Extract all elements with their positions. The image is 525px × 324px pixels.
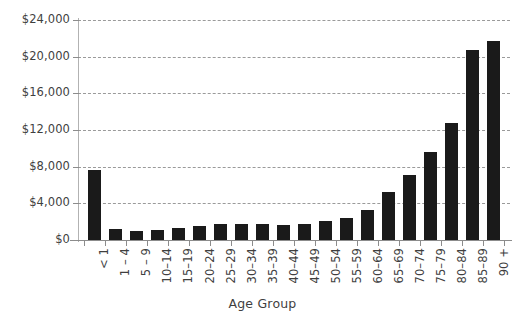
x-axis-tick-label-text: 45–49 (310, 248, 322, 284)
bar (403, 175, 416, 240)
bar (361, 210, 374, 240)
x-axis-tick-label: 5 – 9 (141, 248, 153, 276)
x-axis-tick-label: 15–19 (183, 248, 195, 284)
x-axis-tick-label-text: 25–29 (226, 248, 238, 284)
x-axis-tick-label-text: 85–89 (478, 248, 490, 284)
x-axis-tick-mark (210, 240, 211, 246)
x-axis-tick-label: 30–34 (247, 248, 259, 284)
y-axis-tick-label: $12,000 (6, 124, 70, 136)
x-axis-tick-label: 70–74 (415, 248, 427, 284)
x-axis-tick-mark (189, 240, 190, 246)
bar (193, 226, 206, 240)
x-axis-tick-mark (378, 240, 379, 246)
x-axis-tick-label: 25–29 (226, 248, 238, 284)
x-axis-tick-label: 60–64 (373, 248, 385, 284)
bar (340, 218, 353, 240)
x-axis-tick-label: 85–89 (478, 248, 490, 284)
x-axis-tick-label-text: 50–54 (331, 248, 343, 284)
x-axis-tick-label-text: < 1 (99, 248, 111, 269)
x-axis-tick-label-text: 40–44 (289, 248, 301, 284)
bar (88, 170, 101, 240)
x-axis-tick-mark (462, 240, 463, 246)
x-axis-tick-label: 75–79 (436, 248, 448, 284)
x-axis-tick-mark (504, 240, 505, 246)
x-axis-tick-label: 1 – 4 (120, 248, 132, 276)
x-axis-tick-label: 65–69 (394, 248, 406, 284)
x-axis-tick-label: 50–54 (331, 248, 343, 284)
bar (130, 231, 143, 240)
bar (487, 41, 500, 240)
x-axis-tick-mark (273, 240, 274, 246)
y-axis-tick-label: $8,000 (6, 161, 70, 173)
bar (319, 221, 332, 240)
x-axis-tick-label-text: 90 + (499, 248, 511, 276)
x-axis-tick-label: 45–49 (310, 248, 322, 284)
x-axis-tick-mark (168, 240, 169, 246)
x-axis-tick-label-text: 75–79 (436, 248, 448, 284)
x-axis-tick-mark (105, 240, 106, 246)
x-axis-tick-label: 20–24 (205, 248, 217, 284)
x-axis-tick-label: 80–84 (457, 248, 469, 284)
x-axis-tick-label-text: 70–74 (415, 248, 427, 284)
x-axis-tick-mark (231, 240, 232, 246)
y-axis-tick-label: $20,000 (6, 51, 70, 63)
bar (235, 224, 248, 241)
bar (277, 225, 290, 240)
x-axis-tick-mark (357, 240, 358, 246)
x-axis-labels: < 11 – 45 – 910–1415–1920–2425–2930–3435… (78, 248, 510, 298)
bar (382, 192, 395, 240)
bars-container (78, 20, 510, 240)
x-axis-tick-mark (315, 240, 316, 246)
x-axis-tick-mark (441, 240, 442, 246)
y-axis-tick-label: $4,000 (6, 197, 70, 209)
x-axis-tick-label-text: 20–24 (205, 248, 217, 284)
x-axis-title: Age Group (0, 296, 525, 311)
bar (256, 224, 269, 240)
y-axis-tick-label: $24,000 (6, 14, 70, 26)
bar (445, 123, 458, 240)
x-axis-tick-mark (294, 240, 295, 246)
y-axis-labels: $0$4,000$8,000$12,000$16,000$20,000$24,0… (0, 0, 70, 324)
bar (172, 228, 185, 240)
x-axis-tick-label-text: 15–19 (183, 248, 195, 284)
x-axis-tick-label: 35–39 (268, 248, 280, 284)
bar (298, 224, 311, 240)
x-axis-tick-mark (126, 240, 127, 246)
x-axis-tick-label: 55–59 (352, 248, 364, 284)
bar (151, 230, 164, 240)
x-axis-tick-mark (483, 240, 484, 246)
x-axis-tick-label-text: 55–59 (352, 248, 364, 284)
x-axis-tick-label-text: 5 – 9 (141, 248, 153, 276)
x-axis-tick-mark (399, 240, 400, 246)
x-axis-tick-label-text: 30–34 (247, 248, 259, 284)
x-axis-tick-label-text: 1 – 4 (120, 248, 132, 276)
x-axis-tick-mark (420, 240, 421, 246)
x-axis-tick-mark (84, 240, 85, 246)
x-axis-tick-mark (336, 240, 337, 246)
bar (214, 224, 227, 240)
x-axis-tick-label-text: 35–39 (268, 248, 280, 284)
x-axis-tick-label-text: 60–64 (373, 248, 385, 284)
x-axis-tick-label: < 1 (99, 248, 111, 269)
x-axis-tick-label: 10–14 (162, 248, 174, 284)
x-axis-tick-label: 90 + (499, 248, 511, 276)
bar (466, 50, 479, 240)
y-axis-tick-label: $16,000 (6, 87, 70, 99)
x-axis-tick-label-text: 80–84 (457, 248, 469, 284)
bar (109, 229, 122, 240)
x-axis-tick-mark (147, 240, 148, 246)
bar-chart: $0$4,000$8,000$12,000$16,000$20,000$24,0… (0, 0, 525, 324)
x-axis-tick-label-text: 65–69 (394, 248, 406, 284)
x-axis-tick-label: 40–44 (289, 248, 301, 284)
x-axis-tick-mark (252, 240, 253, 246)
bar (424, 152, 437, 240)
y-axis-tick-label: $0 (6, 234, 70, 246)
x-axis-tick-label-text: 10–14 (162, 248, 174, 284)
x-axis-ticks (78, 240, 510, 248)
